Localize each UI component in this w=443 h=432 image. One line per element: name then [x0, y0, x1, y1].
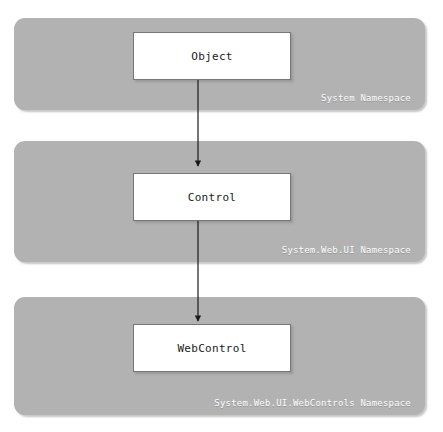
class-box-object[interactable]: Object [133, 32, 291, 80]
inheritance-diagram: Object System Namespace Control System.W… [0, 0, 443, 432]
namespace-panel-system-web-ui-webcontrols: WebControl System.Web.UI.WebControls Nam… [14, 297, 425, 415]
namespace-caption: System.Web.UI.WebControls Namespace [214, 397, 411, 409]
namespace-caption: System.Web.UI Namespace [282, 244, 411, 256]
namespace-panel-system: Object System Namespace [14, 18, 425, 110]
class-box-control[interactable]: Control [133, 173, 291, 221]
namespace-panel-system-web-ui: Control System.Web.UI Namespace [14, 141, 425, 262]
class-box-label: WebControl [177, 342, 246, 355]
class-box-webcontrol[interactable]: WebControl [133, 324, 291, 372]
class-box-label: Control [188, 191, 236, 204]
class-box-label: Object [191, 50, 233, 63]
namespace-caption: System Namespace [321, 92, 411, 104]
